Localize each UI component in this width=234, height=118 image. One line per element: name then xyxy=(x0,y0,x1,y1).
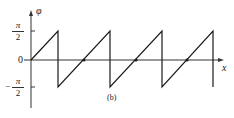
tick-label-pi-half: π 2 xyxy=(12,21,24,42)
tick-label-neg-pi-half: π 2 xyxy=(12,77,24,98)
tick-label-num: π xyxy=(12,77,24,88)
x-axis-label: x xyxy=(222,63,226,73)
zero-crossing-marker xyxy=(135,59,138,62)
zero-crossing-marker xyxy=(186,59,189,62)
sawtooth-line xyxy=(31,31,213,87)
y-axis-arrow-icon xyxy=(29,10,33,16)
tick-label-num: π xyxy=(12,21,24,32)
y-axis-label: φ xyxy=(36,6,42,16)
figure-caption: (b) xyxy=(107,94,116,102)
sawtooth-figure: φ x π 2 0 − π 2 (b) xyxy=(0,0,234,118)
tick-label-den: 2 xyxy=(12,88,24,98)
zero-crossing-marker xyxy=(83,59,86,62)
tick-label-zero: 0 xyxy=(18,55,23,65)
tick-label-den: 2 xyxy=(12,32,24,42)
tick-label-minus: − xyxy=(5,81,10,91)
plot-area xyxy=(0,0,234,118)
